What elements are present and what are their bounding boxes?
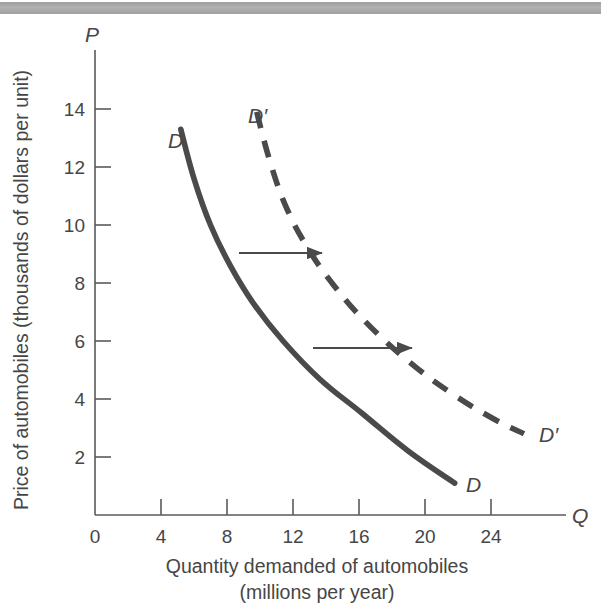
x-tick-label-8: 8 [222,526,233,547]
curve-label-d-bottom: D [466,473,481,496]
x-tick-label-20: 20 [414,526,435,547]
x-tick-label-24: 24 [480,526,502,547]
y-tick-label-4: 4 [74,389,85,410]
x-tick-label-16: 16 [348,526,369,547]
y-tick-label-12: 12 [64,157,85,178]
x-axis-title-line1: Quantity demanded of automobiles [166,555,469,577]
figure-container: Price of automobiles (thousands of dolla… [0,0,601,611]
demand-curve-d [181,129,455,483]
demand-curve-d-prime [257,112,524,434]
x-tick-label-0: 0 [90,526,101,547]
y-tick-label-10: 10 [64,215,85,236]
curve-label-d-top: D [168,129,183,152]
y-tick-marks [95,109,111,457]
y-tick-label-14: 14 [64,99,86,120]
y-tick-labels: 2 4 6 8 10 12 14 [64,99,86,468]
x-axis-symbol: Q [572,504,588,527]
y-tick-label-8: 8 [74,273,85,294]
x-tick-marks [161,499,491,515]
x-tick-label-12: 12 [282,526,303,547]
curve-label-dprime-top: D′ [248,104,268,127]
top-rule [0,2,601,14]
y-axis-symbol: P [85,23,99,46]
x-tick-label-4: 4 [156,526,167,547]
demand-shift-chart: Price of automobiles (thousands of dolla… [0,0,601,611]
curve-label-dprime-bottom: D′ [539,423,559,446]
x-tick-labels: 0 4 8 12 16 20 24 [90,526,502,547]
y-axis-title: Price of automobiles (thousands of dolla… [10,70,32,510]
x-axis-title-line2: (millions per year) [240,581,395,603]
y-tick-label-6: 6 [74,331,85,352]
y-tick-label-2: 2 [74,447,85,468]
